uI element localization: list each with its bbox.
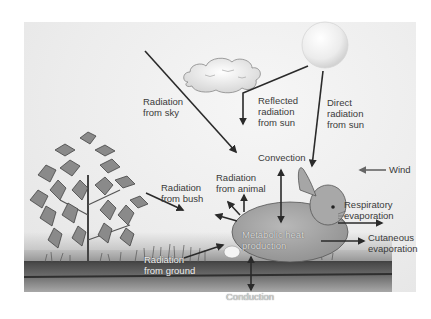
label-radiation-from-ground: Radiation from ground <box>144 254 195 276</box>
diagram-graphics <box>0 0 431 319</box>
soil-line <box>24 274 392 277</box>
arrow-radiation-from-animal-3 <box>216 215 237 221</box>
label-wind: Wind <box>389 164 411 175</box>
label-respiratory-evaporation: Respiratory evaporation <box>344 199 394 221</box>
label-radiation-from-sky: Radiation from sky <box>143 96 183 118</box>
label-metabolic-heat-production: Metabolic heat production <box>242 229 304 251</box>
label-convection: Convection <box>258 152 306 163</box>
bush-icon <box>30 132 148 262</box>
label-radiation-from-bush: Radiation from bush <box>161 182 203 204</box>
label-cutaneous-evaporation: Cutaneous evaporation <box>368 232 418 254</box>
arrow-radiation-from-animal-1 <box>228 202 240 215</box>
label-reflected-radiation-from-sun: Reflected radiation from sun <box>258 95 298 128</box>
arrow-direct-radiation <box>312 71 323 166</box>
cloud-icon <box>184 58 261 93</box>
label-radiation-from-animal: Radiation from animal <box>216 172 266 194</box>
label-conduction: Conduction <box>226 291 274 302</box>
sun-icon <box>302 22 348 68</box>
heat-exchange-diagram: Radiation from sky Reflected radiation f… <box>0 0 431 319</box>
label-direct-radiation-from-sun: Direct radiation from sun <box>327 97 364 130</box>
